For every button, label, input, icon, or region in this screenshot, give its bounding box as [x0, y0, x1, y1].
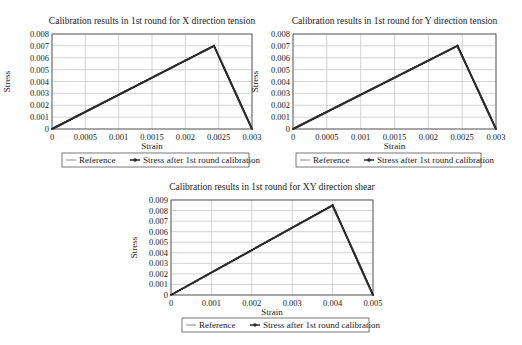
- y-axis-label: Stress: [250, 70, 260, 92]
- y-tick-label: 0.002: [30, 100, 49, 110]
- legend: ReferenceStress after 1st round calibrat…: [296, 153, 494, 167]
- y-tick-label: 0.005: [149, 237, 168, 247]
- chart-1: Calibration results in 1st round for X d…: [2, 16, 262, 167]
- x-tick-label: 0.005: [363, 298, 382, 308]
- x-tick-label: 0.004: [323, 298, 343, 308]
- x-tick-label: 0.002: [242, 298, 261, 308]
- y-tick-label: 0.005: [30, 65, 49, 75]
- legend-calibration-label: Stress after 1st round calibration: [377, 155, 494, 165]
- legend-calibration-label: Stress after 1st round calibration: [143, 155, 260, 165]
- y-tick-label: 0.005: [271, 65, 290, 75]
- y-tick-label: 0.003: [149, 258, 168, 268]
- series-reference-line: [171, 205, 373, 295]
- grid: [293, 34, 496, 129]
- plot-area: [171, 200, 373, 295]
- x-tick-label: 0: [50, 132, 54, 142]
- chart-title: Calibration results in 1st round for XY …: [169, 182, 375, 192]
- y-tick-label: 0.008: [30, 29, 49, 39]
- series-calibration-markers: [170, 204, 374, 296]
- x-tick-label: 0.001: [109, 132, 128, 142]
- y-tick-label: 0.006: [30, 53, 49, 63]
- x-tick-label: 0.0005: [74, 132, 97, 142]
- y-tick-label: 0.006: [149, 227, 168, 237]
- chart-title: Calibration results in 1st round for X d…: [49, 16, 256, 26]
- grid: [52, 34, 252, 129]
- y-tick-label: 0.004: [149, 248, 169, 258]
- legend-reference-label: Reference: [79, 155, 115, 165]
- y-tick-label: 0.003: [30, 88, 49, 98]
- y-tick-label: 0.002: [271, 100, 290, 110]
- chart-3: Calibration results in 1st round for XY …: [129, 182, 383, 332]
- x-axis-label: Strain: [384, 141, 406, 151]
- y-tick-label: 0.003: [271, 88, 290, 98]
- series-calibration-line: [171, 205, 373, 295]
- y-tick-label: 0: [164, 290, 168, 300]
- y-tick-label: 0.004: [271, 77, 291, 87]
- y-tick-label: 0.002: [149, 269, 168, 279]
- y-tick-label: 0.001: [30, 112, 49, 122]
- y-tick-label: 0.009: [149, 195, 168, 205]
- legend: ReferenceStress after 1st round calibrat…: [182, 318, 380, 332]
- y-tick-label: 0.004: [30, 77, 50, 87]
- x-tick-label: 0.003: [242, 132, 261, 142]
- y-tick-label: 0.008: [149, 206, 168, 216]
- legend: ReferenceStress after 1st round calibrat…: [62, 153, 260, 167]
- x-tick-label: 0.002: [419, 132, 438, 142]
- y-axis-label: Stress: [129, 236, 139, 258]
- x-tick-label: 0.003: [486, 132, 505, 142]
- x-axis-label: Strain: [141, 141, 163, 151]
- x-tick-label: 0.0025: [207, 132, 230, 142]
- y-tick-label: 0.006: [271, 53, 290, 63]
- legend-reference-label: Reference: [313, 155, 349, 165]
- chart-2: Calibration results in 1st round for Y d…: [250, 16, 506, 167]
- y-tick-label: 0.007: [149, 216, 168, 226]
- grid: [171, 200, 373, 295]
- x-tick-label: 0: [291, 132, 295, 142]
- y-tick-label: 0.001: [271, 112, 290, 122]
- x-tick-label: 0: [169, 298, 173, 308]
- y-tick-label: 0.007: [271, 41, 290, 51]
- figure-canvas: Calibration results in 1st round for X d…: [0, 0, 522, 345]
- x-tick-label: 0.001: [202, 298, 221, 308]
- y-tick-label: 0.007: [30, 41, 49, 51]
- y-tick-label: 0.008: [271, 29, 290, 39]
- x-tick-label: 0.002: [176, 132, 195, 142]
- y-tick-label: 0.001: [149, 279, 168, 289]
- y-axis-label: Stress: [2, 70, 12, 92]
- chart-title: Calibration results in 1st round for Y d…: [292, 16, 498, 26]
- x-tick-label: 0.0025: [450, 132, 473, 142]
- legend-calibration-label: Stress after 1st round calibration: [263, 320, 380, 330]
- x-tick-label: 0.001: [351, 132, 370, 142]
- y-tick-label: 0: [286, 124, 290, 134]
- x-tick-label: 0.0005: [315, 132, 338, 142]
- legend-reference-label: Reference: [199, 320, 235, 330]
- y-tick-label: 0: [45, 124, 49, 134]
- x-tick-label: 0.003: [283, 298, 302, 308]
- x-axis-label: Strain: [261, 307, 283, 317]
